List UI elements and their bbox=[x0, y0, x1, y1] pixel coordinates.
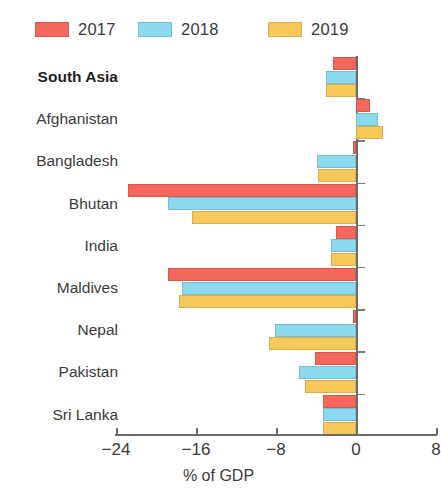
bar-2017 bbox=[353, 310, 356, 323]
bar-2018 bbox=[356, 113, 378, 126]
axis-tick bbox=[358, 183, 365, 185]
bar-2019 bbox=[356, 126, 383, 139]
x-tick-mark bbox=[116, 428, 118, 435]
bar-2018 bbox=[299, 366, 356, 379]
category-label: Maldives bbox=[0, 280, 118, 296]
legend-item-2018[interactable]: 2018 bbox=[138, 21, 219, 38]
bar-2017 bbox=[356, 99, 370, 112]
bar-2019 bbox=[305, 380, 356, 393]
bar-2019 bbox=[269, 337, 356, 350]
legend-label-2019: 2019 bbox=[311, 21, 349, 38]
bar-2019 bbox=[331, 253, 356, 266]
bar-2018 bbox=[326, 71, 356, 84]
x-tick-label: −8 bbox=[266, 441, 285, 458]
x-tick-label: 0 bbox=[351, 441, 360, 458]
bar-2018 bbox=[182, 282, 356, 295]
category-label: Bhutan bbox=[0, 196, 118, 212]
x-tick-mark bbox=[196, 428, 198, 435]
bar-2019 bbox=[323, 422, 356, 435]
legend-label-2017: 2017 bbox=[78, 21, 116, 38]
legend-item-2017[interactable]: 2017 bbox=[35, 21, 116, 38]
bar-2017 bbox=[353, 141, 356, 154]
category-label: Sri Lanka bbox=[0, 407, 118, 423]
axis-tick bbox=[358, 394, 365, 396]
bar-2018 bbox=[317, 155, 356, 168]
legend-label-2018: 2018 bbox=[181, 21, 219, 38]
legend-swatch-2019 bbox=[268, 22, 302, 37]
bar-2017 bbox=[333, 57, 356, 70]
bar-2019 bbox=[326, 84, 356, 97]
x-tick-mark bbox=[276, 428, 278, 435]
bar-2019 bbox=[318, 169, 356, 182]
category-label: Pakistan bbox=[0, 365, 118, 381]
bar-2017 bbox=[336, 226, 356, 239]
bar-2018 bbox=[275, 324, 356, 337]
x-tick-label: −16 bbox=[182, 441, 211, 458]
axis-tick bbox=[358, 225, 365, 227]
category-label: Afghanistan bbox=[0, 111, 118, 127]
axis-tick bbox=[358, 309, 365, 311]
category-label: South Asia bbox=[0, 69, 118, 85]
axis-tick bbox=[358, 140, 365, 142]
legend-item-2019[interactable]: 2019 bbox=[268, 21, 349, 38]
bar-2018 bbox=[168, 197, 356, 210]
axis-tick bbox=[358, 267, 365, 269]
x-tick-label: 8 bbox=[431, 441, 440, 458]
legend-swatch-2017 bbox=[35, 22, 69, 37]
bar-2018 bbox=[331, 239, 356, 252]
bar-2019 bbox=[192, 211, 356, 224]
bar-2018 bbox=[323, 408, 356, 421]
category-label: India bbox=[0, 238, 118, 254]
x-tick-label: −24 bbox=[102, 441, 131, 458]
legend-swatch-2018 bbox=[138, 22, 172, 37]
x-axis-title: % of GDP bbox=[0, 468, 437, 484]
x-tick-mark bbox=[356, 428, 358, 435]
bar-2019 bbox=[179, 295, 356, 308]
category-label: Bangladesh bbox=[0, 154, 118, 170]
bar-2017 bbox=[168, 268, 356, 281]
bar-2017 bbox=[128, 184, 356, 197]
axis-tick bbox=[358, 351, 365, 353]
bar-2017 bbox=[315, 352, 356, 365]
plot-area: South AsiaAfghanistanBangladeshBhutanInd… bbox=[0, 56, 437, 436]
chart-legend: 201720182019 bbox=[0, 14, 437, 44]
bar-2017 bbox=[323, 395, 356, 408]
category-label: Nepal bbox=[0, 322, 118, 338]
x-tick-mark bbox=[436, 428, 438, 435]
